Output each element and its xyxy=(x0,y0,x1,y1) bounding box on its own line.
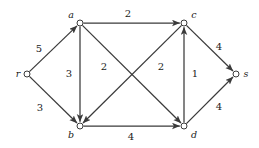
node-label-a: a xyxy=(68,9,74,20)
edge-weight-d-c: 1 xyxy=(192,68,198,79)
node-label-b: b xyxy=(68,129,74,140)
edge-weight-r-b: 3 xyxy=(37,102,43,113)
graph-node-d[interactable] xyxy=(181,123,187,129)
graph-node-a[interactable] xyxy=(77,20,83,26)
graph-edge-c-s xyxy=(186,25,233,71)
graph-node-s[interactable] xyxy=(233,71,239,77)
edge-weight-b-d: 4 xyxy=(128,131,134,142)
graph-svg: 5323221444 rabcds xyxy=(0,0,259,148)
diagram-canvas: 5323221444 rabcds xyxy=(0,0,259,148)
edge-weight-a-d: 2 xyxy=(101,61,107,72)
graph-node-b[interactable] xyxy=(77,123,83,129)
edge-weight-a-b: 3 xyxy=(66,68,72,79)
edge-weight-a-c: 2 xyxy=(125,8,131,19)
graph-edge-d-s xyxy=(186,77,233,124)
graph-edge-r-b xyxy=(29,76,77,123)
graph-node-c[interactable] xyxy=(181,20,187,26)
node-label-r: r xyxy=(16,68,22,79)
edges-layer xyxy=(29,23,233,126)
edge-weight-d-s: 4 xyxy=(216,101,222,112)
graph-node-r[interactable] xyxy=(24,71,30,77)
edge-weight-c-b: 2 xyxy=(158,61,164,72)
node-label-c: c xyxy=(191,9,197,20)
node-label-d: d xyxy=(191,129,197,140)
edge-weight-c-s: 4 xyxy=(216,41,222,52)
edge-weight-r-a: 5 xyxy=(36,43,42,54)
edge-labels-layer: 5323221444 xyxy=(36,8,222,142)
node-label-s: s xyxy=(244,68,249,79)
